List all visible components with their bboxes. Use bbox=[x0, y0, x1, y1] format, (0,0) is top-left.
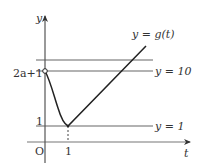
curve-label: y = g(t) bbox=[131, 28, 174, 41]
tick-t-1: 1 bbox=[65, 145, 72, 158]
origin-label: O bbox=[35, 145, 44, 158]
curve-g bbox=[45, 46, 146, 126]
y-axis-label: y bbox=[35, 12, 43, 25]
tick-y-1: 1 bbox=[36, 115, 43, 128]
line-10-label: y = 10 bbox=[154, 65, 191, 78]
tick-2a-plus-1: 2a+1 bbox=[13, 67, 43, 80]
open-point bbox=[43, 69, 48, 74]
minimum-point bbox=[67, 125, 70, 128]
t-axis-label: t bbox=[184, 147, 189, 160]
line-1-label: y = 1 bbox=[154, 120, 184, 133]
graph: y t O 1 1 2a+1 y = g(t) y = 10 y = 1 bbox=[0, 0, 206, 163]
